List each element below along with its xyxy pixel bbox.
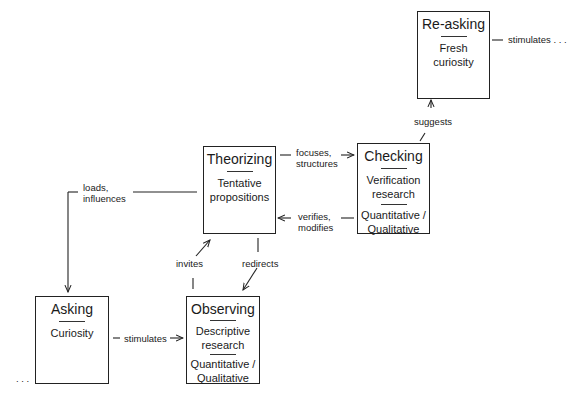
- label-focuses-line1: focuses,: [296, 147, 338, 158]
- label-focuses: focuses, structures: [296, 147, 338, 169]
- divider: [381, 204, 407, 205]
- node-theorizing: Theorizing Tentative propositions: [203, 146, 276, 234]
- node-checking: Checking Verification research Quantitat…: [357, 143, 430, 234]
- node-text: Curiosity: [36, 326, 108, 340]
- label-loads-line1: loads,: [83, 182, 126, 193]
- node-text: Fresh: [418, 41, 489, 55]
- node-observing: Observing Descriptive research Quantitat…: [186, 296, 260, 384]
- node-re-asking: Re-asking Fresh curiosity: [417, 11, 490, 99]
- divider: [227, 171, 253, 172]
- node-text: Quantitative /: [187, 357, 259, 371]
- label-stimulates-bottom: stimulates: [124, 333, 167, 344]
- node-text: Quantitative /: [358, 208, 429, 222]
- node-text: Verification: [358, 173, 429, 187]
- node-text: Qualitative: [187, 371, 259, 385]
- label-ellipsis-left: . . .: [16, 373, 29, 384]
- label-loads-line2: influences: [83, 193, 126, 204]
- label-focuses-line2: structures: [296, 158, 338, 169]
- label-redirects: redirects: [242, 258, 278, 269]
- divider: [441, 36, 467, 37]
- label-verifies-line2: modifies: [298, 222, 333, 233]
- label-loads: loads, influences: [83, 182, 126, 204]
- node-title: Theorizing: [204, 151, 275, 167]
- node-text: propositions: [204, 190, 275, 204]
- divider: [210, 354, 236, 355]
- node-title: Checking: [358, 148, 429, 164]
- label-invites: invites: [176, 258, 203, 269]
- node-title: Observing: [187, 301, 259, 317]
- node-title: Re-asking: [418, 16, 489, 32]
- node-text: research: [358, 187, 429, 201]
- node-text: curiosity: [418, 55, 489, 69]
- label-verifies: verifies, modifies: [298, 211, 333, 233]
- node-text: Qualitative: [358, 222, 429, 236]
- label-verifies-line1: verifies,: [298, 211, 333, 222]
- node-asking: Asking Curiosity: [35, 296, 109, 384]
- node-text: Tentative: [204, 176, 275, 190]
- node-text: Descriptive: [187, 324, 259, 338]
- node-text: research: [187, 338, 259, 352]
- label-stimulates-top: stimulates . . .: [508, 34, 567, 45]
- node-title: Asking: [36, 301, 108, 317]
- divider: [381, 168, 407, 169]
- label-suggests: suggests: [414, 116, 452, 127]
- divider: [59, 321, 85, 322]
- divider: [210, 320, 236, 321]
